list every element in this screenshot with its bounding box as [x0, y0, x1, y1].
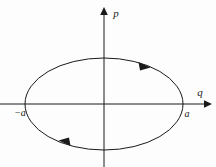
phase-space-figure: p q −a a [0, 0, 216, 167]
left-vertex-label: −a [14, 107, 26, 118]
p-axis-label: p [112, 7, 119, 19]
phase-diagram-canvas: p q −a a [0, 0, 216, 167]
p-axis-arrow-icon [100, 7, 108, 15]
q-axis-arrow-icon [204, 100, 212, 108]
q-axis-label: q [197, 86, 203, 98]
direction-arrow-lower-left-icon [59, 138, 71, 146]
right-vertex-label: a [185, 108, 190, 119]
